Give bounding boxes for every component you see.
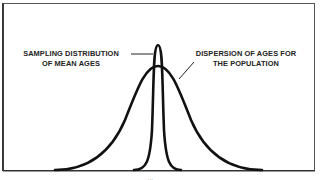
sampling-label: SAMPLING DISTRIBUTION OF MEAN AGES	[12, 49, 130, 69]
population-label: DISPERSION OF AGES FOR THE POPULATION	[184, 49, 308, 69]
population-label-line2: THE POPULATION	[184, 59, 308, 69]
sampling-label-line1: SAMPLING DISTRIBUTION	[12, 49, 130, 59]
sampling-curve	[134, 45, 181, 170]
population-curve	[55, 66, 262, 170]
sampling-label-line2: OF MEAN AGES	[12, 59, 130, 69]
population-label-line1: DISPERSION OF AGES FOR	[184, 49, 308, 59]
distribution-curves	[0, 0, 321, 180]
page-number: ...	[148, 175, 153, 180]
